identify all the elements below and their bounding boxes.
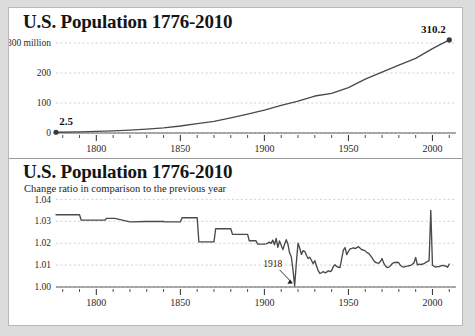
data-point-label: 310.2 <box>421 23 446 35</box>
y-axis-tick-label: 1.02 <box>34 238 51 248</box>
population-total-plot: 0100200300 million180018501900195020002.… <box>9 8 464 158</box>
annotation-arrowhead <box>287 280 292 284</box>
data-point-label: 2.5 <box>59 115 73 127</box>
y-axis-tick-label: 200 <box>37 68 52 78</box>
x-axis-tick-label: 1800 <box>86 143 106 154</box>
x-axis-tick-label: 2000 <box>422 143 442 154</box>
y-axis-tick-label: 1.03 <box>34 216 51 226</box>
y-axis-tick-label: 0 <box>46 128 51 138</box>
x-axis-tick-label: 1850 <box>170 297 190 308</box>
population-total-chart: U.S. Population 1776-2010 0100200300 mil… <box>9 8 462 158</box>
population-change-plot: 1.001.011.021.031.0418001850190019502000… <box>9 159 464 326</box>
annotation-label: 1918 <box>263 259 282 269</box>
data-point-marker <box>53 130 58 135</box>
y-axis-tick-label: 100 <box>37 98 52 108</box>
data-series-line <box>56 40 449 132</box>
y-axis-tick-label: 1.00 <box>34 282 51 292</box>
x-axis-tick-label: 2000 <box>422 297 442 308</box>
x-axis-tick-label: 1850 <box>170 143 190 154</box>
x-axis-tick-label: 1900 <box>254 297 274 308</box>
x-axis-tick-label: 1950 <box>338 143 358 154</box>
figure-panel: U.S. Population 1776-2010 0100200300 mil… <box>8 7 463 326</box>
y-axis-tick-label: 300 million <box>9 38 51 48</box>
y-axis-tick-label: 1.04 <box>34 195 51 205</box>
x-axis-tick-label: 1800 <box>86 297 106 308</box>
x-axis-tick-label: 1950 <box>338 297 358 308</box>
y-axis-tick-label: 1.01 <box>34 260 51 270</box>
x-axis-tick-label: 1900 <box>254 143 274 154</box>
data-point-marker <box>447 37 452 42</box>
population-change-chart: U.S. Population 1776-2010 Change ratio i… <box>9 158 462 325</box>
